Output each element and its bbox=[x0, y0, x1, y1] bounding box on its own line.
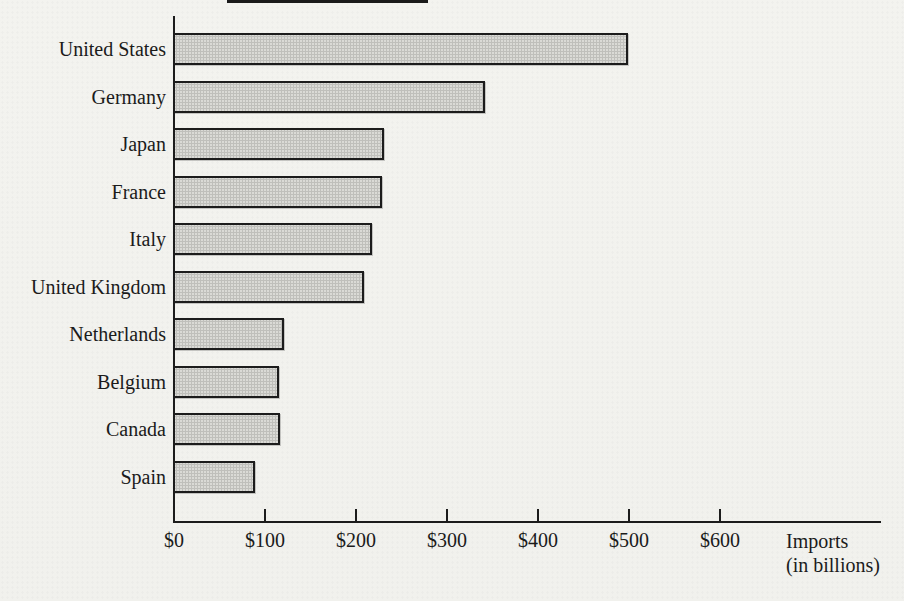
x-tick-label: $100 bbox=[245, 528, 285, 552]
bar bbox=[173, 461, 255, 493]
category-label: France bbox=[0, 176, 166, 208]
x-axis-caption-line1: Imports bbox=[786, 529, 880, 553]
x-tick-mark bbox=[719, 509, 721, 521]
category-label: Netherlands bbox=[0, 318, 166, 350]
imports-bar-chart-figure: United StatesGermanyJapanFranceItalyUnit… bbox=[0, 0, 904, 601]
bar bbox=[173, 223, 372, 255]
x-axis-caption-line2: (in billions) bbox=[786, 553, 880, 577]
bar bbox=[173, 176, 382, 208]
bar bbox=[173, 128, 384, 160]
x-tick-label: $200 bbox=[336, 528, 376, 552]
bar bbox=[173, 366, 279, 398]
category-label: United Kingdom bbox=[0, 271, 166, 303]
x-tick-label: $600 bbox=[700, 528, 740, 552]
x-axis-line bbox=[173, 521, 881, 523]
category-label: Japan bbox=[0, 128, 166, 160]
x-tick-mark bbox=[537, 509, 539, 521]
category-label: Italy bbox=[0, 223, 166, 255]
x-axis-caption: Imports (in billions) bbox=[786, 529, 880, 577]
y-axis-line bbox=[173, 16, 175, 523]
category-label: Belgium bbox=[0, 366, 166, 398]
x-tick-mark bbox=[628, 509, 630, 521]
bar bbox=[173, 271, 364, 303]
x-tick-label: $0 bbox=[164, 528, 184, 552]
category-label: Canada bbox=[0, 413, 166, 445]
bar-chart: United StatesGermanyJapanFranceItalyUnit… bbox=[0, 0, 904, 601]
bar bbox=[173, 81, 485, 113]
x-tick-mark bbox=[355, 509, 357, 521]
bar bbox=[173, 413, 280, 445]
x-tick-mark bbox=[264, 509, 266, 521]
category-label: United States bbox=[0, 33, 166, 65]
x-tick-label: $400 bbox=[518, 528, 558, 552]
bar bbox=[173, 318, 284, 350]
x-tick-label: $300 bbox=[427, 528, 467, 552]
category-label: Spain bbox=[0, 461, 166, 493]
x-tick-label: $500 bbox=[609, 528, 649, 552]
category-label: Germany bbox=[0, 81, 166, 113]
x-tick-mark bbox=[446, 509, 448, 521]
bar bbox=[173, 33, 628, 65]
